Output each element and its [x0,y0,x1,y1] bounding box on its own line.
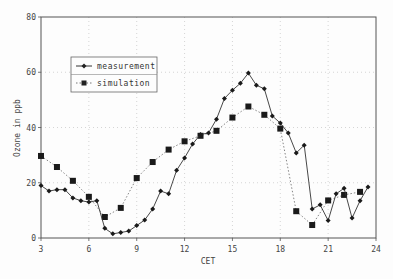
simulation-marker [357,189,363,195]
x-tick-label: 6 [86,245,91,254]
simulation-marker [245,104,251,110]
simulation-marker [70,178,76,184]
simulation-marker [150,159,156,165]
legend-measurement-label: measurement [97,62,155,71]
x-tick-label: 9 [134,245,139,254]
x-tick-label: 18 [275,245,285,254]
x-tick-labels: 3691215182124 [39,245,381,254]
x-tick-label: 24 [371,245,381,254]
measurement-marker [262,86,267,91]
y-tick-label: 0 [31,234,36,243]
x-tick-label: 12 [180,245,190,254]
measurement-marker [54,187,59,192]
measurement-marker [350,216,355,221]
x-tick-label: 15 [228,245,238,254]
measurement-marker [310,206,315,211]
y-tick-labels: 020406080 [26,13,36,243]
measurement-marker [358,198,363,203]
simulation-marker [293,208,299,214]
measurement-marker [206,131,211,136]
simulation-marker [325,197,331,203]
measurement-marker [166,191,171,196]
simulation-marker [38,153,44,159]
measurement-marker [214,117,219,122]
simulation-marker [86,194,92,200]
measurement-marker [94,198,99,203]
simulation-marker [102,214,108,220]
simulation-marker [277,126,283,132]
ozone-line-chart: 3691215182124 020406080 CET Ozone in ppb… [0,0,393,279]
measurement-marker [78,198,83,203]
legend: measurement simulation [71,57,157,92]
simulation-marker [229,115,235,121]
measurement-line [41,73,368,234]
simulation-marker [134,175,140,181]
simulation-marker [118,205,124,211]
measurement-marker [318,202,323,207]
measurement-marker [118,230,123,235]
simulation-marker [213,128,219,134]
measurement-marker [86,200,91,205]
measurement-marker [174,168,179,173]
y-tick-label: 20 [26,179,36,188]
measurement-marker [326,218,331,223]
simulation-marker [166,147,172,153]
simulation-marker [309,222,315,228]
y-tick-label: 80 [26,13,36,22]
y-tick-label: 60 [26,68,36,77]
simulation-marker [182,138,188,144]
legend-simulation-marker-icon [82,81,87,86]
x-axis-label: CET [201,257,216,266]
measurement-series [39,71,371,237]
simulation-marker [54,164,60,170]
measurement-marker [182,155,187,160]
measurement-marker [158,189,163,194]
measurement-marker [366,184,371,189]
y-axis-label: Ozone in ppb [13,99,22,157]
legend-simulation-label: simulation [97,79,150,88]
measurement-marker [254,83,259,88]
x-tick-label: 3 [39,245,44,254]
x-tick-label: 21 [323,245,333,254]
grid [41,17,376,238]
y-tick-label: 40 [26,124,36,133]
simulation-marker [261,112,267,118]
